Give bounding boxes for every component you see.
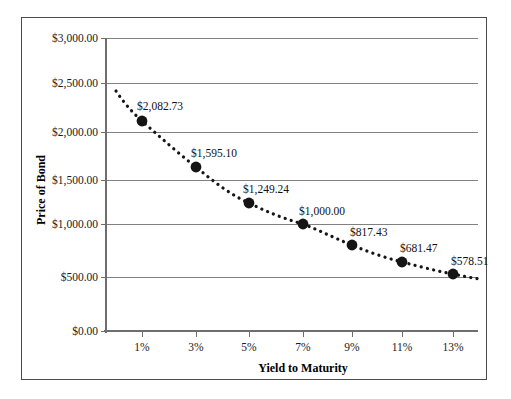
y-axis-title: Price of Bond xyxy=(34,155,48,225)
data-point-label-5: $1,249.24 xyxy=(243,183,289,196)
x-tick-label-13: 13% xyxy=(442,341,464,353)
x-tick-label-11: 11% xyxy=(392,341,413,353)
data-point-labels: $2,082.73 $1,595.10 $1,249.24 $1,000.00 … xyxy=(137,100,489,267)
y-tick-marks xyxy=(101,38,106,331)
data-point-markers xyxy=(137,116,459,280)
chart-figure: $3,000.00 $2,500.00 $2,000.00 $1,500.00 … xyxy=(0,0,511,399)
data-point-13 xyxy=(448,269,459,280)
x-tick-label-7: 7% xyxy=(295,341,311,353)
y-tick-label-1500: $1,500.00 xyxy=(52,174,98,187)
data-point-1 xyxy=(137,116,148,127)
data-point-label-3: $1,595.10 xyxy=(191,147,237,160)
data-point-5 xyxy=(244,198,255,209)
data-point-label-1: $2,082.73 xyxy=(137,100,183,113)
data-point-label-11: $681.47 xyxy=(400,242,438,254)
x-tick-label-3: 3% xyxy=(188,341,204,353)
y-tick-label-2000: $2,000.00 xyxy=(52,126,98,139)
data-point-11 xyxy=(397,257,408,268)
gridlines xyxy=(106,38,478,331)
x-tick-label-5: 5% xyxy=(241,341,257,353)
bond-price-yield-chart: $3,000.00 $2,500.00 $2,000.00 $1,500.00 … xyxy=(0,0,511,399)
y-tick-labels: $3,000.00 $2,500.00 $2,000.00 $1,500.00 … xyxy=(52,32,98,337)
data-point-7 xyxy=(298,219,309,230)
y-tick-label-3000: $3,000.00 xyxy=(52,32,98,45)
y-tick-label-2500: $2,500.00 xyxy=(52,77,98,90)
data-point-9 xyxy=(347,240,358,251)
x-tick-label-1: 1% xyxy=(134,341,150,353)
data-point-3 xyxy=(191,162,202,173)
y-tick-label-0: $0.00 xyxy=(72,325,98,337)
x-tick-labels: 1% 3% 5% 7% 9% 11% 13% xyxy=(134,341,464,353)
data-point-label-7: $1,000.00 xyxy=(299,205,345,218)
data-point-label-13: $578.51 xyxy=(451,255,489,267)
x-tick-label-9: 9% xyxy=(344,341,360,353)
y-tick-label-1000: $1,000.00 xyxy=(52,218,98,231)
x-tick-marks xyxy=(142,331,453,337)
x-axis-title: Yield to Maturity xyxy=(258,361,348,375)
y-tick-label-500: $500.00 xyxy=(61,271,99,283)
data-point-label-9: $817.43 xyxy=(350,226,388,238)
axes xyxy=(104,38,478,333)
